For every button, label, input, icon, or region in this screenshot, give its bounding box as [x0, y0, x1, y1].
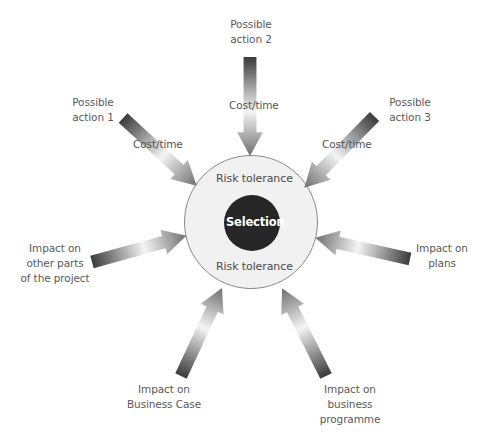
label-line: Possible — [66, 95, 120, 110]
arrow-other-parts — [89, 224, 190, 275]
label-line: action 2 — [226, 32, 276, 47]
label-line: of the project — [18, 271, 92, 286]
label-line: action 3 — [383, 110, 437, 125]
label-impact-business-case: Impact on Business Case — [124, 382, 204, 412]
selection-label: Selection — [226, 215, 284, 229]
label-line: Possible — [226, 17, 276, 32]
label-line: other parts — [18, 256, 92, 271]
edge-label-cost-time-action-1: Cost/time — [133, 138, 183, 150]
label-possible-action-1: Possible action 1 — [66, 95, 120, 125]
arrow-business-case — [170, 283, 234, 382]
label-impact-business-programme: Impact on business programme — [317, 382, 383, 427]
arrow-action-3 — [295, 107, 384, 196]
label-line: business — [317, 397, 383, 412]
risk-tolerance-bottom: Risk tolerance — [216, 260, 293, 273]
label-possible-action-3: Possible action 3 — [383, 95, 437, 125]
label-line: Impact on — [317, 382, 383, 397]
label-line: Possible — [383, 95, 437, 110]
risk-tolerance-top: Risk tolerance — [216, 172, 293, 185]
edge-label-cost-time-action-2: Cost/time — [229, 99, 279, 111]
edge-label-cost-time-action-3: Cost/time — [322, 138, 372, 150]
label-possible-action-2: Possible action 2 — [226, 17, 276, 47]
label-impact-other-parts: Impact on other parts of the project — [18, 241, 92, 286]
label-line: plans — [412, 256, 472, 271]
arrow-business-programme — [271, 283, 338, 382]
arrow-action-1 — [114, 108, 205, 195]
label-line: action 1 — [66, 110, 120, 125]
arrow-plans — [313, 226, 413, 272]
label-line: Impact on — [412, 241, 472, 256]
label-line: programme — [317, 412, 383, 427]
label-line: Impact on — [124, 382, 204, 397]
label-impact-plans: Impact on plans — [412, 241, 472, 271]
label-line: Business Case — [124, 397, 204, 412]
label-line: Impact on — [18, 241, 92, 256]
